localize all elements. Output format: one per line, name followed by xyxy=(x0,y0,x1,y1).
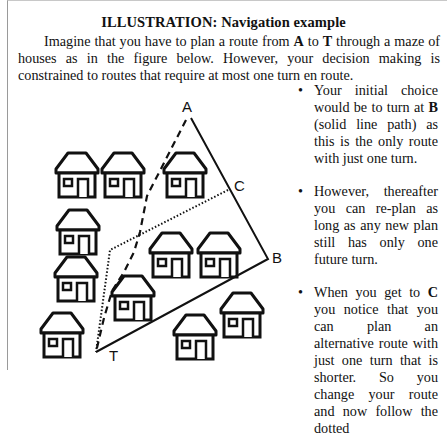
house-icon xyxy=(55,257,97,301)
bullet-item: •When you get to C you notice that you c… xyxy=(296,284,438,437)
bullet-text: When you get to xyxy=(314,284,428,300)
house-icon xyxy=(221,293,263,337)
house-icon xyxy=(57,210,99,254)
bullet-icon: • xyxy=(298,183,303,200)
house-icon xyxy=(56,153,98,197)
house-icon xyxy=(102,153,144,197)
bullet-icon: • xyxy=(298,284,303,301)
bullet-text: (solid line path) as this is the only ro… xyxy=(314,116,438,166)
bullet-item: •Your initial choice would be to turn at… xyxy=(296,82,438,167)
point-t-label: T xyxy=(109,347,118,364)
house-icon xyxy=(198,233,240,277)
bullet-list: •Your initial choice would be to turn at… xyxy=(296,82,438,437)
house-icon xyxy=(112,276,154,320)
bullet-text: you notice that you can plan an alternat… xyxy=(314,301,438,436)
house-icon xyxy=(164,153,206,197)
point-c-label: C xyxy=(234,177,245,194)
point-a-label: A xyxy=(182,98,192,115)
bullet-icon: • xyxy=(298,82,303,99)
house-icon xyxy=(150,233,192,277)
house-icon xyxy=(174,315,216,359)
bullet-item: •However, thereafter you can re-plan as … xyxy=(296,183,438,268)
bullet-bold: B xyxy=(429,99,438,115)
bullet-text: However, thereafter you can re-plan as l… xyxy=(314,183,438,267)
point-b-label: B xyxy=(272,249,282,266)
house-icon xyxy=(41,313,83,357)
intro-target-label: T xyxy=(323,33,332,49)
navigation-figure: A C B T xyxy=(0,0,300,370)
intro-text: to xyxy=(304,33,323,49)
bullet-bold: C xyxy=(428,284,438,300)
bullet-text: Your initial choice would be to turn at xyxy=(314,82,438,115)
